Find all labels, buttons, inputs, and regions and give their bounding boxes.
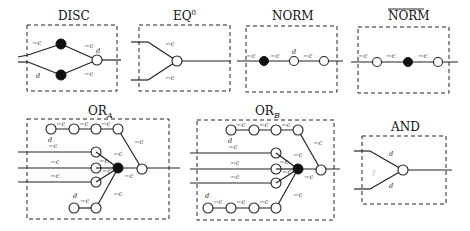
- svg-text:−c: −c: [386, 52, 395, 60]
- svg-text:−c: −c: [165, 40, 174, 48]
- or-b-hub-node: [293, 164, 303, 174]
- and-node: [398, 165, 408, 175]
- or-b-bottom-node: [203, 203, 213, 213]
- svg-text:−c: −c: [270, 52, 279, 60]
- svg-text:−c: −c: [282, 168, 291, 176]
- disc-node-out: [92, 55, 102, 65]
- svg-text:−c: −c: [293, 191, 302, 199]
- eq0-box: [139, 25, 230, 91]
- gadget-diagram: DISC −c −c d −c d EQ0 −c −c NORM: [0, 0, 470, 231]
- or-a-chain-node: [69, 124, 79, 134]
- svg-text:−c: −c: [228, 143, 237, 151]
- gadget-disc: DISC −c −c d −c d: [18, 9, 121, 91]
- norm-title: NORM: [272, 9, 314, 23]
- svg-text:−c: −c: [32, 39, 41, 47]
- svg-text:−c: −c: [259, 198, 268, 206]
- or-b-bottom-node: [249, 203, 259, 213]
- or-a-chain-node: [113, 124, 123, 134]
- disc-box: [27, 25, 117, 91]
- and-title: AND: [390, 120, 420, 134]
- svg-text:−c: −c: [79, 120, 88, 128]
- svg-text:−c: −c: [246, 52, 255, 60]
- svg-text:−c: −c: [236, 198, 245, 206]
- gadget-or-a: ORA −c −c −c −c d −c −c −c −c −c −c −: [18, 104, 180, 219]
- eq0-node: [172, 56, 182, 66]
- norm-bar-title: NORM: [388, 9, 430, 23]
- or-b-title: ORB: [255, 104, 280, 120]
- svg-text:−c: −c: [358, 52, 367, 60]
- norm-node-2: [290, 57, 299, 66]
- or-a-bottom-node: [69, 203, 79, 213]
- disc-node-top: [56, 39, 66, 49]
- or-b-chain-node: [271, 125, 281, 135]
- eq0-title: EQ0: [173, 9, 196, 23]
- disc-node-bottom: [56, 70, 66, 80]
- norm-node-1: [260, 57, 269, 66]
- norm-node-3: [320, 57, 329, 66]
- svg-text:−c: −c: [418, 52, 427, 60]
- or-a-out-node: [137, 164, 147, 174]
- svg-text:d: d: [292, 48, 296, 56]
- svg-text:−c: −c: [99, 157, 108, 165]
- or-a-chain-node: [46, 124, 56, 134]
- svg-text:−c: −c: [304, 173, 313, 181]
- svg-text:−c: −c: [213, 198, 222, 206]
- svg-text:−c: −c: [279, 158, 288, 166]
- svg-text:−c: −c: [84, 70, 93, 78]
- svg-text:−c: −c: [50, 158, 59, 166]
- norm-bar-node-2: [404, 58, 413, 67]
- svg-text:−c: −c: [230, 173, 239, 181]
- svg-text:d: d: [389, 150, 393, 158]
- or-b-chain-node: [293, 125, 303, 135]
- or-b-chain-node: [226, 125, 236, 135]
- svg-text:−c: −c: [165, 74, 174, 82]
- svg-text:−c: −c: [102, 167, 111, 175]
- svg-text:−c: −c: [236, 121, 245, 129]
- svg-text:d: d: [96, 47, 100, 55]
- svg-text:−c: −c: [56, 120, 65, 128]
- svg-text:−c: −c: [101, 120, 110, 128]
- gadget-and: AND d d ⋮: [354, 120, 452, 204]
- vertical-dots: ⋮: [370, 169, 377, 177]
- svg-text:−c: −c: [80, 197, 89, 205]
- svg-text:−c: −c: [48, 142, 57, 150]
- svg-text:−c: −c: [113, 190, 122, 198]
- svg-text:d: d: [36, 72, 40, 80]
- disc-title: DISC: [58, 9, 90, 23]
- or-a-hub-node: [113, 163, 123, 173]
- norm-bar-node-1: [373, 58, 382, 67]
- or-b-out-node: [316, 165, 326, 175]
- svg-text:−c: −c: [50, 172, 59, 180]
- svg-text:−c: −c: [281, 121, 290, 129]
- svg-text:−c: −c: [124, 172, 133, 180]
- svg-text:−c: −c: [293, 151, 302, 159]
- or-a-chain-node: [91, 124, 101, 134]
- svg-text:−c: −c: [230, 159, 239, 167]
- or-a-bottom-node: [91, 203, 101, 213]
- or-b-chain-node: [249, 125, 259, 135]
- svg-text:−c: −c: [259, 121, 268, 129]
- gadget-norm-bar: NORM −c −c −c: [351, 9, 458, 93]
- svg-text:d: d: [73, 192, 77, 200]
- svg-text:−c: −c: [113, 150, 122, 158]
- svg-text:d: d: [205, 192, 209, 200]
- gadget-or-b: ORB −c −c −c −c d −c −c −c −c −c −c −: [190, 104, 340, 220]
- or-a-title: ORA: [88, 104, 113, 120]
- svg-text:−c: −c: [313, 139, 322, 147]
- svg-text:−c: −c: [134, 138, 143, 146]
- svg-text:−c: −c: [84, 42, 93, 50]
- svg-text:d: d: [389, 182, 393, 190]
- gadget-eq0: EQ0 −c −c: [131, 9, 231, 91]
- or-b-bottom-node: [226, 203, 236, 213]
- norm-bar-node-3: [434, 58, 443, 67]
- gadget-norm: NORM −c −c d −c: [237, 9, 343, 92]
- svg-text:−c: −c: [303, 52, 312, 60]
- or-b-bottom-node: [271, 203, 281, 213]
